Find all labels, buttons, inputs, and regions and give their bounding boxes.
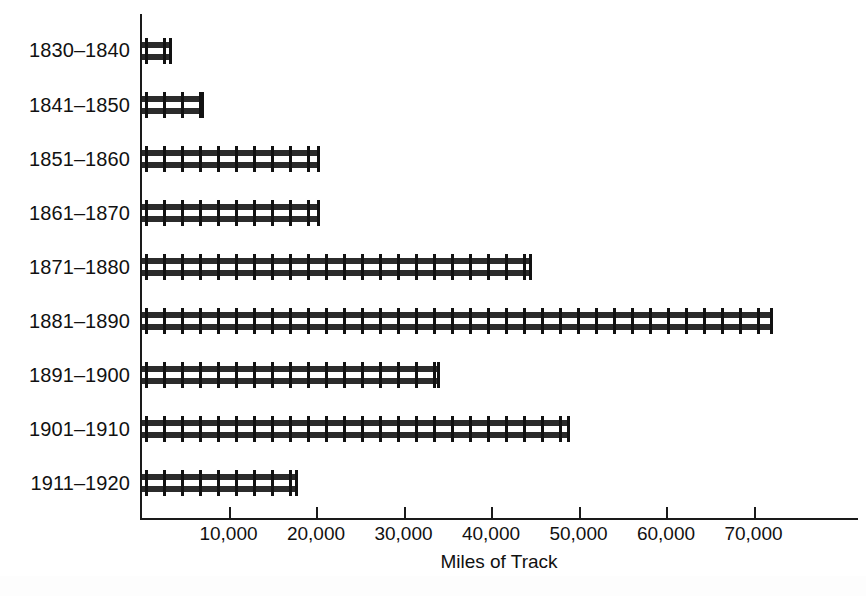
crosstie	[145, 362, 148, 388]
crosstie	[541, 416, 544, 442]
category-label: 1911–1920	[0, 473, 130, 493]
crosstie	[163, 308, 166, 334]
crosstie	[271, 362, 274, 388]
crosstie	[235, 362, 238, 388]
crosstie	[289, 146, 292, 172]
crosstie	[739, 308, 742, 334]
crosstie	[397, 362, 400, 388]
crosstie	[199, 146, 202, 172]
crosstie	[721, 308, 724, 334]
crosstie	[253, 200, 256, 226]
crosstie	[505, 308, 508, 334]
crosstie	[541, 308, 544, 334]
track-bar	[141, 308, 773, 334]
crosstie	[163, 416, 166, 442]
crosstie	[271, 308, 274, 334]
track-bar	[141, 470, 298, 496]
category-label: 1861–1870	[0, 203, 130, 223]
crosstie	[235, 470, 238, 496]
crosstie	[145, 416, 148, 442]
crosstie	[253, 254, 256, 280]
crosstie	[145, 92, 148, 118]
crosstie	[235, 146, 238, 172]
crosstie	[487, 308, 490, 334]
crosstie	[145, 146, 148, 172]
crosstie	[469, 254, 472, 280]
crosstie	[181, 470, 184, 496]
crosstie	[217, 470, 220, 496]
crosstie	[253, 146, 256, 172]
crosstie	[559, 416, 562, 442]
category-label: 1830–1840	[0, 40, 130, 60]
crosstie	[217, 146, 220, 172]
crosstie	[317, 146, 320, 172]
crosstie	[433, 416, 436, 442]
crosstie	[163, 146, 166, 172]
crosstie	[703, 308, 706, 334]
crossties	[141, 362, 440, 388]
crosstie	[253, 416, 256, 442]
crosstie	[325, 362, 328, 388]
x-axis-tick	[754, 507, 756, 518]
crosstie	[451, 416, 454, 442]
crosstie	[163, 92, 166, 118]
crosstie	[437, 362, 440, 388]
crosstie	[343, 416, 346, 442]
track-bar	[141, 92, 204, 118]
category-label: 1841–1850	[0, 95, 130, 115]
y-axis-line	[140, 14, 142, 520]
x-axis-line	[140, 518, 858, 520]
crosstie	[433, 254, 436, 280]
crosstie	[343, 308, 346, 334]
crosstie	[415, 416, 418, 442]
crosstie	[469, 416, 472, 442]
crossties	[141, 416, 570, 442]
railroad-track-bar-chart: 1830–1840 1841–1850 1851–1860 1861–1870 …	[0, 0, 866, 596]
crosstie	[379, 362, 382, 388]
crosstie	[307, 146, 310, 172]
crosstie	[217, 362, 220, 388]
crosstie	[415, 308, 418, 334]
crosstie	[325, 416, 328, 442]
crosstie	[235, 200, 238, 226]
crosstie	[145, 38, 148, 64]
crosstie	[415, 362, 418, 388]
crosstie	[379, 416, 382, 442]
crosstie	[307, 416, 310, 442]
crosstie	[685, 308, 688, 334]
x-axis-title: Miles of Track	[140, 552, 858, 571]
crossties	[141, 92, 204, 118]
crosstie	[289, 308, 292, 334]
category-label: 1851–1860	[0, 149, 130, 169]
crosstie	[199, 200, 202, 226]
crosstie	[289, 470, 292, 496]
crosstie	[217, 254, 220, 280]
x-axis-tick	[579, 507, 581, 518]
scan-artifact	[0, 576, 866, 596]
crosstie	[181, 200, 184, 226]
crosstie	[649, 308, 652, 334]
crosstie	[271, 254, 274, 280]
crosstie	[217, 200, 220, 226]
crosstie	[361, 416, 364, 442]
crosstie	[235, 416, 238, 442]
crosstie	[505, 254, 508, 280]
crosstie	[361, 308, 364, 334]
crosstie	[181, 146, 184, 172]
crosstie	[379, 308, 382, 334]
x-axis-tick	[491, 507, 493, 518]
crosstie	[289, 254, 292, 280]
crosstie	[181, 254, 184, 280]
crosstie	[595, 308, 598, 334]
crosstie	[397, 416, 400, 442]
crosstie	[169, 38, 172, 64]
crosstie	[757, 308, 760, 334]
track-bar	[141, 254, 532, 280]
crosstie	[667, 308, 670, 334]
track-bar	[141, 362, 440, 388]
crosstie	[523, 416, 526, 442]
category-label: 1901–1910	[0, 419, 130, 439]
crosstie	[217, 308, 220, 334]
crosstie	[145, 470, 148, 496]
crosstie	[181, 362, 184, 388]
